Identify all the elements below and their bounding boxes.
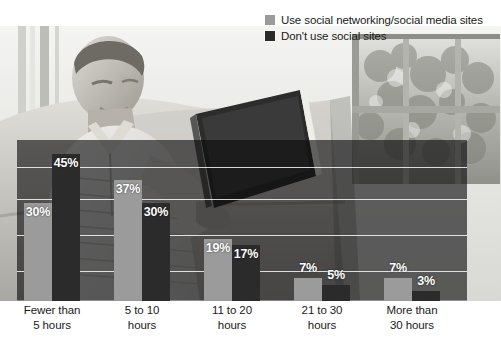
bar-use-social-2: 19% <box>204 239 232 301</box>
bar-use-social-0: 30% <box>24 203 52 301</box>
bar-value-label: 7% <box>384 261 412 275</box>
bar-group-container: 30%45%37%30%19%17%7%5%7%3% <box>17 140 467 301</box>
x-axis-label-line: 5 hours <box>4 318 100 333</box>
bar-value-label: 7% <box>294 261 322 275</box>
bar-use-social-1: 37% <box>114 180 142 301</box>
x-axis-label-0: Fewer than5 hours <box>4 303 100 333</box>
bar-value-label: 3% <box>412 274 440 288</box>
bar-dont-use-social-1: 30% <box>142 203 170 301</box>
bar-value-label: 19% <box>204 241 232 255</box>
bar-use-social-3: 7% <box>294 278 322 301</box>
x-axis-label-line: hours <box>94 318 190 333</box>
x-axis-label-line: 21 to 30 <box>274 303 370 318</box>
legend-item-use-social[interactable]: Use social networking/social media sites <box>265 13 483 27</box>
x-axis-label-line: 30 hours <box>364 318 460 333</box>
x-axis-label-line: hours <box>184 318 280 333</box>
bar-use-social-4: 7% <box>384 278 412 301</box>
bar-dont-use-social-3: 5% <box>322 285 350 301</box>
x-axis-label-4: More than30 hours <box>364 303 460 333</box>
plot-area: 30%45%37%30%19%17%7%5%7%3% <box>17 140 467 301</box>
legend-label-use-social: Use social networking/social media sites <box>281 14 483 26</box>
bar-value-label: 30% <box>24 205 52 219</box>
x-axis-label-1: 5 to 10hours <box>94 303 190 333</box>
bar-dont-use-social-4: 3% <box>412 291 440 301</box>
x-axis-labels: Fewer than5 hours5 to 10hours11 to 20hou… <box>17 303 467 349</box>
bar-value-label: 37% <box>114 182 142 196</box>
x-axis-label-2: 11 to 20hours <box>184 303 280 333</box>
x-axis-label-line: More than <box>364 303 460 318</box>
bar-value-label: 17% <box>232 247 260 261</box>
bar-dont-use-social-2: 17% <box>232 245 260 301</box>
legend-item-dont-use-social[interactable]: Don't use social sites <box>265 29 483 43</box>
legend-swatch-icon-use-social <box>265 15 275 25</box>
bar-value-label: 45% <box>52 156 80 170</box>
x-axis-label-line: hours <box>274 318 370 333</box>
legend-label-dont-use-social: Don't use social sites <box>281 30 386 42</box>
bar-value-label: 30% <box>142 205 170 219</box>
bar-value-label: 5% <box>322 268 350 282</box>
x-axis-label-line: 11 to 20 <box>184 303 280 318</box>
x-axis-label-line: Fewer than <box>4 303 100 318</box>
legend-swatch-icon-dont-use-social <box>265 31 275 41</box>
chart-legend: Use social networking/social media sites… <box>265 13 483 45</box>
x-axis-label-3: 21 to 30hours <box>274 303 370 333</box>
chart-page: 30%45%37%30%19%17%7%5%7%3% Use social ne… <box>0 0 501 349</box>
x-axis-label-line: 5 to 10 <box>94 303 190 318</box>
bar-dont-use-social-0: 45% <box>52 154 80 301</box>
